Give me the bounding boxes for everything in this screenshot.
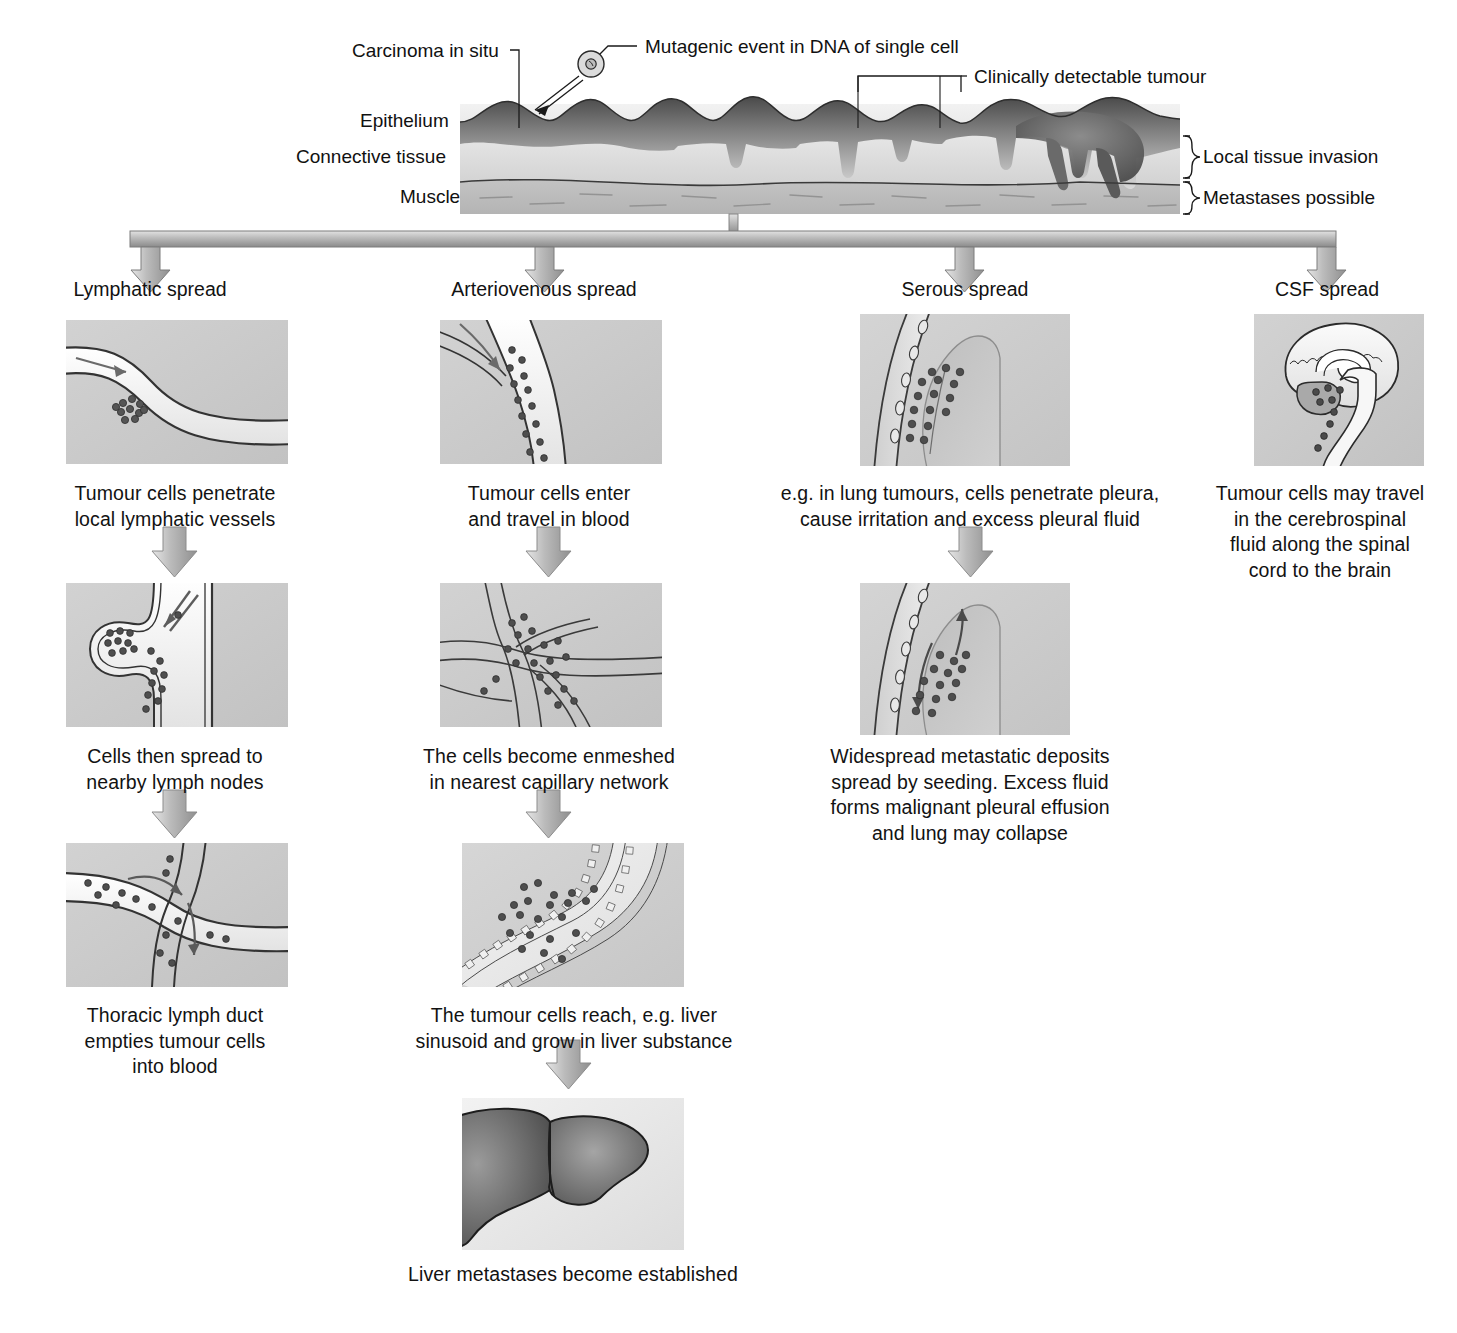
lymph-node-panel [66, 583, 288, 727]
capillary-network-illustration [440, 583, 662, 727]
capillary-network-panel [440, 583, 662, 727]
caption-lymphatic-step-2: Cells then spread to nearby lymph nodes [25, 744, 325, 795]
caption-lymphatic-step-3: Thoracic lymph duct empties tumour cells… [25, 1003, 325, 1080]
column-header-arteriovenous: Arteriovenous spread [424, 278, 664, 301]
thoracic-duct-panel [66, 843, 288, 987]
tumour-invasion-panel [460, 86, 1180, 214]
liver-illustration [462, 1098, 684, 1250]
liver-metastases-panel [462, 1098, 684, 1250]
brain-spinal-cord-illustration [1254, 314, 1424, 466]
lymph-node-illustration [66, 583, 288, 727]
column-header-csf: CSF spread [1207, 278, 1447, 301]
label-connective-tissue: Connective tissue [296, 146, 446, 168]
pleura-penetration-panel [860, 314, 1070, 466]
caption-arteriovenous-step-4: Liver metastases become established [373, 1262, 773, 1288]
liver-sinusoid-illustration [462, 843, 684, 987]
label-mutagenic-event: Mutagenic event in DNA of single cell [645, 36, 959, 58]
tumour-invasion-illustration [460, 86, 1180, 214]
caption-arteriovenous-step-2: The cells become enmeshed in nearest cap… [389, 744, 709, 795]
caption-arteriovenous-step-3: The tumour cells reach, e.g. liver sinus… [379, 1003, 769, 1054]
thoracic-duct-illustration [66, 843, 288, 987]
brain-spinal-cord-panel [1254, 314, 1424, 466]
label-epithelium: Epithelium [360, 110, 449, 132]
label-metastases-possible: Metastases possible [1203, 187, 1375, 209]
caption-csf-step-1: Tumour cells may travel in the cerebrosp… [1190, 481, 1450, 584]
caption-serous-step-2: Widespread metastatic deposits spread by… [760, 744, 1180, 847]
caption-lymphatic-step-1: Tumour cells penetrate local lymphatic v… [25, 481, 325, 532]
label-clinically-detectable-tumour: Clinically detectable tumour [974, 66, 1206, 88]
label-muscle: Muscle [400, 186, 460, 208]
label-local-tissue-invasion: Local tissue invasion [1203, 146, 1378, 168]
blood-vessel-entry-panel [440, 320, 662, 464]
caption-serous-step-1: e.g. in lung tumours, cells penetrate pl… [740, 481, 1200, 532]
column-header-serous: Serous spread [845, 278, 1085, 301]
lymphatic-vessel-illustration [66, 320, 288, 464]
caption-arteriovenous-step-1: Tumour cells enter and travel in blood [399, 481, 699, 532]
liver-sinusoid-panel [462, 843, 684, 987]
pleural-seeding-panel [860, 583, 1070, 735]
blood-vessel-entry-illustration [440, 320, 662, 464]
lymphatic-vessel-penetration-panel [66, 320, 288, 464]
pleura-penetration-illustration [860, 314, 1070, 466]
pleural-seeding-illustration [860, 583, 1070, 735]
column-header-lymphatic: Lymphatic spread [30, 278, 270, 301]
label-carcinoma-in-situ: Carcinoma in situ [352, 40, 499, 62]
